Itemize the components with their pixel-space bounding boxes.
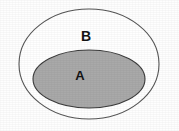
inner-set-label: A <box>75 68 85 83</box>
venn-diagram-figure: B A <box>0 0 179 131</box>
inner-set-ellipse-a <box>33 50 145 108</box>
outer-set-label: B <box>81 28 91 44</box>
venn-diagram-canvas: B A <box>0 0 179 131</box>
